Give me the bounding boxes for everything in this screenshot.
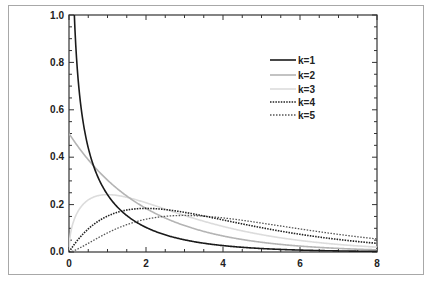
series-k2-line [69, 134, 377, 250]
x-tick-label: 2 [143, 258, 149, 269]
y-axis-labels: 0.0 0.2 0.4 0.6 0.8 1.0 [50, 10, 64, 257]
legend-label-k3: k=3 [298, 84, 315, 95]
chart-svg: 0.0 0.2 0.4 0.6 0.8 1.0 0 2 4 6 8 k=1 k=… [0, 0, 434, 282]
x-tick-label: 6 [297, 258, 303, 269]
legend-label-k4: k=4 [298, 97, 315, 108]
legend-label-k1: k=1 [298, 55, 315, 66]
y-tick-label: 0.8 [50, 57, 64, 68]
series-k1-line [70, 0, 377, 251]
series-k5-line [69, 215, 377, 252]
y-tick-label: 0.4 [50, 151, 64, 162]
plot-area [69, 15, 377, 252]
x-tick-label: 4 [220, 258, 226, 269]
x-tick-label: 8 [374, 258, 380, 269]
legend-label-k2: k=2 [298, 70, 315, 81]
axis-ticks [69, 15, 377, 252]
legend-label-k5: k=5 [298, 110, 315, 121]
y-tick-label: 0.6 [50, 104, 64, 115]
x-tick-label: 0 [66, 258, 72, 269]
y-tick-label: 1.0 [50, 10, 64, 21]
x-axis-labels: 0 2 4 6 8 [66, 258, 380, 269]
legend: k=1 k=2 k=3 k=4 k=5 [270, 55, 315, 121]
y-tick-label: 0.2 [50, 199, 64, 210]
y-tick-label: 0.0 [50, 246, 64, 257]
series-k3-line [69, 195, 377, 252]
series-group [69, 0, 377, 252]
